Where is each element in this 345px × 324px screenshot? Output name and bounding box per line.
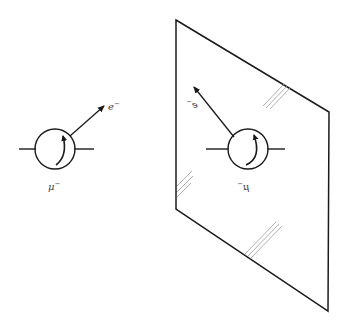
original-muon [19,106,104,169]
glare-marks-bottom [245,222,282,258]
mirror-electron-symbol: e [192,99,198,110]
electron-label: e− [108,101,120,112]
mirror-electron-charge: − [186,98,192,106]
parity-mirror-diagram [0,0,345,324]
mirror-muon-circle [228,129,268,169]
glare-marks-left [177,171,193,197]
mirror-electron-emission-arrow [194,87,234,137]
mirror-outline [176,20,329,311]
mirror-muon-symbol: μ [243,181,250,192]
mirror-spin-arrow-icon [246,135,257,165]
glare-marks-top [263,84,290,109]
electron-emission-arrow [70,106,104,136]
muon-circle [35,129,75,169]
muon-label: μ− [48,181,60,192]
mirror-electron-label: e− [186,99,198,110]
spin-arrow-icon [56,136,64,165]
mirror-plane [176,20,329,311]
electron-charge: − [114,100,120,108]
mirror-muon-label: μ− [237,181,249,192]
mirror-muon-charge: − [237,180,243,188]
mirrored-muon [194,87,285,169]
muon-charge: − [55,180,61,188]
